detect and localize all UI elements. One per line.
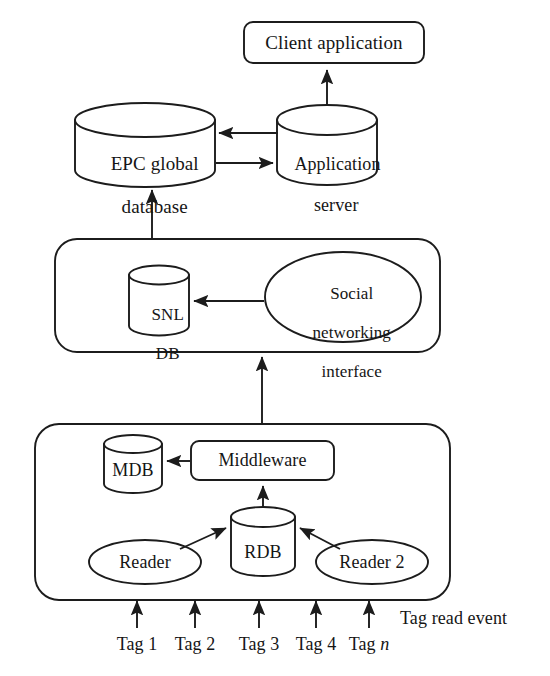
application-server-cylinder[interactable] xyxy=(277,105,377,185)
social-networking-interface-ellipse[interactable] xyxy=(265,252,421,342)
middleware-box[interactable] xyxy=(191,441,334,480)
diagram-canvas: Client application EPC global database A… xyxy=(0,0,550,676)
snl-db-cylinder[interactable] xyxy=(129,266,189,336)
edge-reader1-to-rdb xyxy=(180,528,226,549)
mdb-cylinder[interactable] xyxy=(104,435,162,493)
client-application-box[interactable] xyxy=(244,22,424,63)
rdb-cylinder[interactable] xyxy=(231,507,295,576)
diagram-svg xyxy=(0,0,550,676)
edge-reader2-to-rdb xyxy=(300,528,340,549)
reader-2-ellipse[interactable] xyxy=(316,540,428,584)
epc-global-database-cylinder[interactable] xyxy=(75,103,215,187)
